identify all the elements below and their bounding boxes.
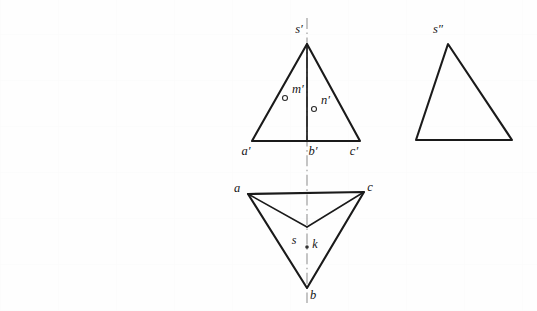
label-s-double-prime: s″ bbox=[433, 22, 444, 36]
label-s: s bbox=[292, 233, 297, 247]
label-m-prime: m′ bbox=[292, 82, 304, 96]
front-view: s′ a′ b′ c′ m′ n′ bbox=[242, 22, 360, 158]
front-view-triangle-outline bbox=[252, 44, 360, 141]
label-a-prime: a′ bbox=[242, 144, 251, 158]
top-view-edge-a-to-apex bbox=[248, 194, 307, 227]
top-view-triangle-outline bbox=[248, 192, 364, 288]
projection-drawing-svg: s′ a′ b′ c′ m′ n′ s″ a c b s k bbox=[0, 0, 537, 311]
technical-drawing-canvas: s′ a′ b′ c′ m′ n′ s″ a c b s k bbox=[0, 0, 537, 311]
label-n-prime: n′ bbox=[321, 93, 330, 107]
label-c-prime: c′ bbox=[350, 144, 359, 158]
point-marker-m-prime bbox=[283, 96, 288, 101]
label-b: b bbox=[310, 288, 316, 302]
label-s-prime: s′ bbox=[295, 22, 303, 36]
point-marker-k bbox=[305, 245, 309, 249]
label-a: a bbox=[234, 181, 240, 195]
label-b-prime: b′ bbox=[309, 144, 318, 158]
side-view: s″ bbox=[416, 22, 512, 140]
point-marker-n-prime bbox=[312, 107, 317, 112]
side-view-triangle-outline bbox=[416, 44, 512, 140]
label-k: k bbox=[312, 237, 318, 251]
label-c: c bbox=[367, 180, 373, 194]
top-view-edge-c-to-apex bbox=[307, 192, 364, 227]
top-view: a c b s k bbox=[234, 180, 373, 302]
